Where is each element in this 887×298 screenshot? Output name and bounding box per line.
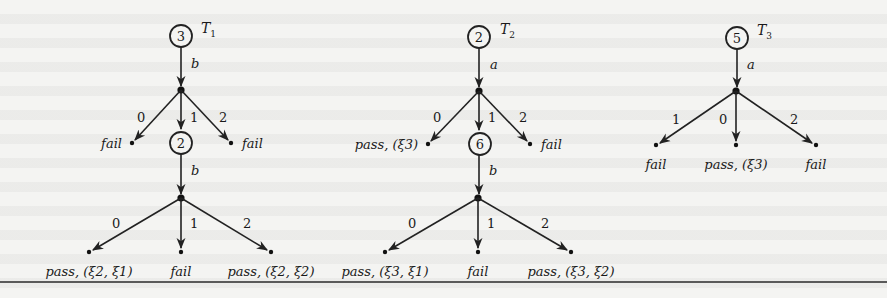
t3-leaf-left [654, 143, 658, 147]
t1-edge-1-label: 1 [190, 110, 198, 125]
t2-edge-2-label: 2 [519, 110, 527, 125]
t2-mid-leaf-1 [476, 250, 480, 254]
t1-mid-leaf-1-verdict: fail [170, 264, 192, 279]
test-trees-figure: 3 T1 b 0 fail 1 2 2 fail [0, 0, 887, 298]
t2-mid-edge-0-label: 0 [408, 216, 416, 231]
diagram-canvas: 3 T1 b 0 fail 1 2 2 fail [0, 0, 887, 298]
t1-mid-leaf-2-verdict: pass, (ξ2, ξ2) [228, 264, 315, 279]
t3-leaf-right-verdict: fail [805, 157, 827, 172]
t1-mid-state: 2 [177, 136, 185, 151]
t2-leaf-2 [528, 142, 532, 146]
t2-root-node: 2 [468, 26, 490, 48]
tree-t3: 5 T3 a 1 fail 0 pass, (ξ3) 2 fail [645, 22, 827, 172]
t3-edge-right-label: 2 [790, 112, 798, 127]
t1-mid-leaf-2 [269, 250, 273, 254]
t2-mid-state: 6 [476, 137, 484, 152]
t3-leaf-left-verdict: fail [645, 157, 667, 172]
t2-mid-edge-0 [389, 198, 478, 250]
t1-leaf-0-verdict: fail [100, 136, 122, 151]
t1-leaf-2-verdict: fail [241, 136, 263, 151]
t2-edge-0-label: 0 [433, 110, 441, 125]
t3-leaf-middle-verdict: pass, (ξ3) [704, 157, 767, 172]
t1-mid-edge-0-label: 0 [112, 216, 120, 231]
t2-edge-1-label: 1 [488, 110, 496, 125]
t3-tree-label: T3 [757, 22, 772, 41]
t1-mid-edge-2-label: 2 [243, 216, 251, 231]
t1-mid-edge-1-label: 1 [190, 216, 198, 231]
t3-edge-middle-label: 0 [719, 112, 727, 127]
t1-edge-0-label: 0 [137, 110, 145, 125]
t1-mid-leaf-0-verdict: pass, (ξ2, ξ1) [46, 264, 133, 279]
t2-mid-edge-1-label: 1 [487, 216, 495, 231]
t1-mid-node: 2 [170, 132, 192, 154]
t2-root-state: 2 [475, 30, 483, 45]
t2-mid-leaf-2 [569, 250, 573, 254]
t3-root-action-label: a [747, 57, 755, 72]
t1-mid-leaf-0 [87, 250, 91, 254]
t2-mid-leaf-0 [383, 250, 387, 254]
t1-edge-2-label: 2 [219, 110, 227, 125]
t1-root-action-label: b [191, 56, 199, 71]
t2-leaf-2-verdict: fail [540, 137, 562, 152]
t1-mid-edge-0 [93, 198, 181, 250]
t2-mid-leaf-2-verdict: pass, (ξ3, ξ2) [528, 264, 615, 279]
t2-mid-leaf-1-verdict: fail [467, 264, 489, 279]
t2-mid-edge-2-label: 2 [541, 216, 549, 231]
t3-edge-right [736, 91, 812, 143]
tree-t2: 2 T2 a 0 pass, (ξ3) 1 6 2 fail b [342, 21, 615, 279]
t3-root-node: 5 [726, 27, 748, 49]
t2-root-action-label: a [490, 57, 498, 72]
t1-root-state: 3 [177, 29, 185, 44]
t2-leaf-0-verdict: pass, (ξ3) [355, 137, 418, 152]
t3-leaf-middle [734, 143, 738, 147]
t1-leaf-0 [130, 141, 134, 145]
t3-leaf-right [814, 143, 818, 147]
t2-mid-action-label: b [489, 163, 497, 178]
tree-t1: 3 T1 b 0 fail 1 2 2 fail [46, 20, 315, 279]
t3-edge-left-label: 1 [672, 112, 680, 127]
t1-tree-label: T1 [201, 20, 216, 39]
t1-leaf-2 [229, 141, 233, 145]
t2-mid-node: 6 [469, 133, 491, 155]
t1-mid-leaf-1 [179, 250, 183, 254]
t1-root-node: 3 [170, 25, 192, 47]
t2-mid-leaf-0-verdict: pass, (ξ3, ξ1) [342, 264, 429, 279]
t2-leaf-0 [426, 142, 430, 146]
t2-tree-label: T2 [500, 21, 515, 40]
t1-mid-action-label: b [191, 163, 199, 178]
t3-root-state: 5 [733, 31, 741, 46]
